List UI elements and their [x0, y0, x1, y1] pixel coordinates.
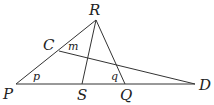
- label-S: S: [77, 86, 87, 104]
- label-R: R: [88, 1, 100, 19]
- angle-label-p: p: [33, 70, 40, 83]
- angle-label-m: m: [68, 40, 78, 53]
- label-Q: Q: [120, 86, 132, 104]
- label-C: C: [43, 36, 55, 54]
- angle-label-q: q: [111, 70, 118, 83]
- label-P: P: [2, 85, 14, 103]
- segment-CD: [59, 51, 195, 84]
- label-D: D: [198, 76, 211, 94]
- geometry-diagram: R C P S Q D p m q: [0, 0, 214, 105]
